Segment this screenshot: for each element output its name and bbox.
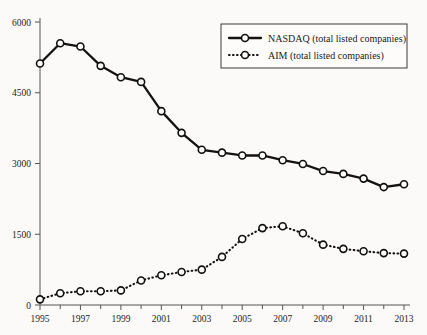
data-point-aim-1996[interactable] — [57, 290, 64, 297]
data-point-aim-2000[interactable] — [138, 277, 145, 284]
series-aim — [37, 223, 408, 303]
data-point-aim-2003[interactable] — [198, 266, 205, 273]
data-point-aim-2001[interactable] — [158, 272, 165, 279]
data-point-aim-2005[interactable] — [239, 235, 246, 242]
x-tick-label: 2001 — [152, 314, 171, 324]
data-point-aim-1999[interactable] — [117, 287, 124, 294]
data-point-nasdaq-2013[interactable] — [401, 181, 408, 188]
data-point-aim-2013[interactable] — [401, 250, 408, 257]
legend-label-nasdaq: NASDAQ (total listed companies) — [268, 33, 406, 45]
chart-legend: NASDAQ (total listed companies)AIM (tota… — [221, 24, 407, 68]
series-aim-line — [40, 226, 404, 299]
data-point-nasdaq-2000[interactable] — [138, 78, 145, 85]
legend-marker-nasdaq — [242, 35, 249, 42]
y-tick-label: 1500 — [12, 230, 31, 240]
y-tick-label: 6000 — [12, 18, 31, 28]
data-point-aim-1997[interactable] — [77, 288, 84, 295]
x-tick-label: 2009 — [314, 314, 333, 324]
legend-label-aim: AIM (total listed companies) — [268, 50, 384, 62]
data-point-aim-1995[interactable] — [37, 296, 44, 303]
x-tick-label: 2007 — [273, 314, 292, 324]
y-axis-ticks: 01500300045006000 — [12, 18, 40, 311]
y-tick-label: 0 — [26, 301, 31, 311]
data-point-nasdaq-2001[interactable] — [158, 108, 165, 115]
data-point-nasdaq-2005[interactable] — [239, 152, 246, 159]
data-point-nasdaq-2011[interactable] — [360, 175, 367, 182]
legend-box — [221, 24, 407, 68]
data-point-nasdaq-1996[interactable] — [57, 40, 64, 47]
chart-figure: 0150030004500600019951997199920012003200… — [0, 0, 427, 335]
data-point-nasdaq-2009[interactable] — [320, 168, 327, 175]
x-tick-label: 2005 — [233, 314, 252, 324]
x-tick-label: 2013 — [395, 314, 414, 324]
x-tick-label: 1997 — [71, 314, 90, 324]
data-point-nasdaq-1995[interactable] — [37, 60, 44, 67]
data-point-nasdaq-1997[interactable] — [77, 43, 84, 50]
data-point-aim-2006[interactable] — [259, 225, 266, 232]
data-point-aim-2008[interactable] — [299, 230, 306, 237]
data-point-aim-2010[interactable] — [340, 245, 347, 252]
data-point-nasdaq-2007[interactable] — [279, 157, 286, 164]
y-tick-label: 4500 — [12, 88, 31, 98]
x-axis-ticks: 1995199719992001200320052007200920112013 — [31, 305, 414, 324]
data-point-nasdaq-2002[interactable] — [178, 129, 185, 136]
x-tick-label: 2003 — [192, 314, 211, 324]
data-point-nasdaq-2004[interactable] — [219, 149, 226, 156]
y-tick-label: 3000 — [12, 159, 31, 169]
x-tick-label: 1995 — [31, 314, 50, 324]
x-tick-label: 2011 — [354, 314, 373, 324]
data-point-nasdaq-2010[interactable] — [340, 170, 347, 177]
line-chart-plot: 0150030004500600019951997199920012003200… — [0, 0, 427, 335]
data-point-aim-2012[interactable] — [380, 250, 387, 257]
data-point-aim-2004[interactable] — [219, 253, 226, 260]
data-point-aim-2009[interactable] — [320, 241, 327, 248]
x-tick-label: 1999 — [111, 314, 130, 324]
data-point-nasdaq-1999[interactable] — [117, 74, 124, 81]
data-point-nasdaq-2003[interactable] — [198, 146, 205, 153]
data-point-nasdaq-1998[interactable] — [97, 62, 104, 69]
data-point-nasdaq-2012[interactable] — [380, 184, 387, 191]
data-point-aim-2007[interactable] — [279, 223, 286, 230]
data-point-nasdaq-2008[interactable] — [299, 160, 306, 167]
data-point-aim-2011[interactable] — [360, 248, 367, 255]
legend-marker-aim — [242, 52, 249, 59]
data-point-aim-2002[interactable] — [178, 268, 185, 275]
data-point-nasdaq-2006[interactable] — [259, 152, 266, 159]
data-point-aim-1998[interactable] — [97, 288, 104, 295]
